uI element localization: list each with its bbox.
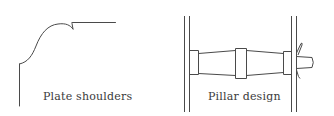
figure-plate-shoulders: Plate shoulders xyxy=(0,0,167,116)
caption-plate-shoulders: Plate shoulders xyxy=(43,90,132,103)
caption-pillar-design: Pillar design xyxy=(208,90,281,103)
figure-pillar-design: Pillar design xyxy=(167,0,334,116)
